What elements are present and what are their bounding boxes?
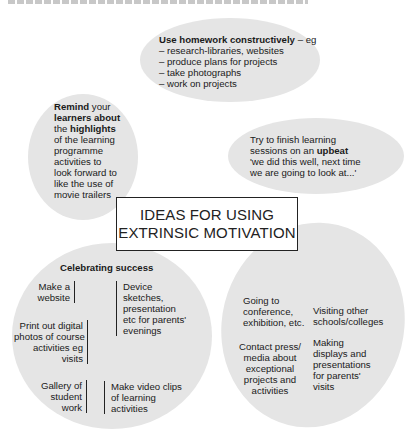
gallery-student-work: Gallery of student work [40, 380, 87, 413]
homework-item: – produce plans for projects [159, 56, 316, 67]
central-title-box: IDEAS FOR USING EXTRINSIC MOTIVATION [116, 197, 298, 251]
device-sketches: Device sketches, presentation etc for pa… [116, 281, 186, 336]
make-video-clips: Make video clips of learning activities [104, 381, 182, 414]
conference-text: Going to conference, exhibition, etc. [243, 295, 304, 328]
central-title-line1: IDEAS FOR USING [140, 206, 274, 224]
homework-item: – research-libraries, websites [159, 45, 316, 56]
celebrating-title: Celebrating success [60, 262, 153, 273]
homework-item: – work on projects [159, 78, 316, 89]
press-text: Contact press/ media about exceptional p… [238, 341, 302, 396]
print-photos: Print out digital photos of course activ… [14, 320, 88, 364]
remind-text: Remind your learners about the highlight… [54, 101, 120, 200]
make-website: Make a website [36, 281, 75, 303]
upbeat-text: Try to finish learning sessions on an up… [250, 134, 361, 178]
displays-text: Making displays and presentations for pa… [313, 337, 371, 392]
clipped-page-title [8, 0, 308, 4]
central-title-line2: EXTRINSIC MOTIVATION [118, 224, 295, 242]
visiting-text: Visiting other schools/colleges [313, 305, 383, 327]
homework-text: Use homework constructively – eg – resea… [159, 34, 316, 89]
homework-heading: Use homework constructively – eg [159, 34, 316, 45]
homework-item: – take photographs [159, 67, 316, 78]
